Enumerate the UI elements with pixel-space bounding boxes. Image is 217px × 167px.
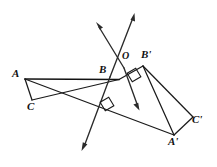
segment-AB bbox=[25, 79, 119, 80]
segment-Bprime-Cprime bbox=[143, 66, 193, 117]
geometry-figure: A B C O A' B' C' bbox=[0, 0, 217, 167]
ray-upper-right-arrowhead bbox=[131, 13, 136, 22]
ray-upper-left-arrowhead bbox=[96, 22, 103, 30]
ray-upper-right bbox=[110, 19, 133, 77]
vertex-label-B: B bbox=[99, 64, 106, 75]
ray-lower-right-arrowhead bbox=[133, 103, 139, 111]
ray-lower-left-arrowhead bbox=[82, 142, 88, 151]
segment-AC bbox=[25, 79, 32, 100]
vertex-label-C-prime: C' bbox=[192, 114, 202, 125]
vertex-label-A-prime: A' bbox=[168, 136, 178, 147]
ray-upper-left bbox=[99, 27, 124, 68]
geometry-canvas bbox=[0, 0, 217, 167]
right-angle-mark-upper bbox=[127, 68, 141, 82]
vertex-label-B-prime: B' bbox=[141, 49, 151, 60]
vertex-label-O: O bbox=[122, 51, 129, 61]
vertex-label-A: A bbox=[12, 68, 19, 79]
vertex-label-C: C bbox=[27, 101, 34, 112]
segment-Cprime-Aprime bbox=[174, 117, 193, 135]
